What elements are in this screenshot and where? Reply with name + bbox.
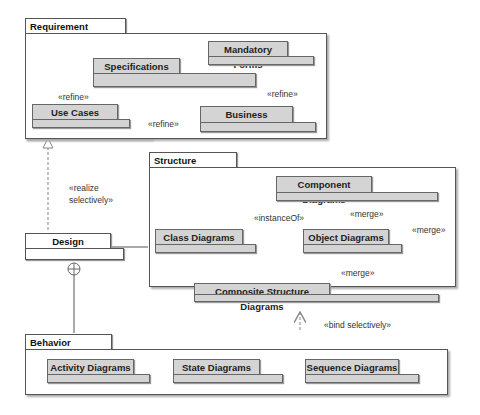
merge-label-composite-object: «merge» xyxy=(341,268,375,278)
instanceof-label: «instanceOf» xyxy=(254,213,304,223)
refine-label-business-specs: «refine» xyxy=(267,89,298,99)
behavior-tab[interactable]: Behavior xyxy=(25,334,112,350)
class-diagrams-package-tab[interactable]: Class Diagrams xyxy=(155,229,243,245)
class-diagrams-package-body[interactable] xyxy=(155,244,256,253)
merge-label-component-object: «merge» xyxy=(350,209,384,219)
sequence-diagrams-package-body[interactable] xyxy=(305,374,419,383)
structure-tab[interactable]: Structure xyxy=(149,152,237,168)
bind-selectively-label: «bind selectively» xyxy=(324,320,391,330)
realize-triangle-icon xyxy=(43,138,53,148)
component-diagrams-package-tab[interactable]: Component Diagrams xyxy=(276,176,372,193)
specifications-package-body[interactable] xyxy=(93,73,256,87)
sequence-diagrams-package-tab[interactable]: Sequence Diagrams xyxy=(305,359,399,375)
mandatory-forms-package-body[interactable] xyxy=(208,56,314,65)
use-cases-package-body[interactable] xyxy=(32,119,130,128)
requirement-analysis-tab[interactable]: Requirement Analysis xyxy=(25,18,126,34)
activity-diagrams-package-body[interactable] xyxy=(47,374,150,383)
design-package-tab[interactable]: Design xyxy=(25,233,111,249)
mandatory-forms-package-tab[interactable]: Mandatory Forms xyxy=(208,41,288,57)
business-processes-package-tab[interactable]: Business Processes xyxy=(200,106,293,123)
object-diagrams-package-body[interactable] xyxy=(303,244,402,253)
state-diagrams-package-tab[interactable]: State Diagrams xyxy=(173,359,260,375)
refine-label-usecases: «refine» xyxy=(58,92,89,102)
design-package-body[interactable] xyxy=(25,248,124,260)
composite-structure-diagrams-package-body[interactable] xyxy=(194,294,439,302)
refine-label-business-usecases: «refine» xyxy=(148,119,179,129)
use-cases-package-tab[interactable]: Use Cases xyxy=(32,104,118,120)
object-diagrams-package-tab[interactable]: Object Diagrams xyxy=(303,229,389,245)
specifications-package-tab[interactable]: Specifications xyxy=(93,58,180,74)
realize-label-line2: selectively» xyxy=(69,195,113,205)
realize-label-line1: «realize xyxy=(69,183,99,193)
state-diagrams-package-body[interactable] xyxy=(173,374,283,383)
business-processes-package-body[interactable] xyxy=(200,122,316,132)
activity-diagrams-package-tab[interactable]: Activity Diagrams xyxy=(47,359,134,375)
component-diagrams-package-body[interactable] xyxy=(276,192,438,201)
merge-label-component-composite: «merge» xyxy=(412,225,446,235)
